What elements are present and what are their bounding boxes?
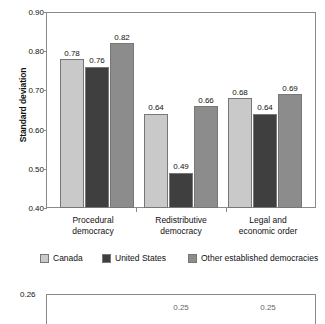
- y-tick-mark-0: [43, 208, 47, 209]
- bar-canada-legal[interactable]: [228, 98, 252, 208]
- legend-label-canada: Canada: [53, 253, 83, 263]
- bar-value-united-states-redistributive: 0.49: [173, 162, 189, 171]
- x-category-line-2b: economic order: [239, 226, 298, 237]
- x-category-label-redistributive-democracy: Redistributive democracy: [155, 215, 207, 236]
- x-category-line-0a: Procedural: [72, 215, 114, 226]
- bar-united-states-legal[interactable]: [253, 114, 277, 208]
- bar-value-other-democracies-redistributive: 0.66: [198, 96, 214, 105]
- x-category-line-1a: Redistributive: [155, 215, 207, 226]
- legend-item-canada[interactable]: Canada: [40, 253, 83, 263]
- bars-layer: 0.78 0.76 0.82 0.64 0.49 0.66 0.68 0.64 …: [46, 12, 316, 208]
- legend-swatch-canada-icon: [40, 254, 49, 263]
- bar-value-other-democracies-procedural: 0.82: [114, 33, 130, 42]
- y-tick-label-4: 0.80: [14, 47, 44, 56]
- bar-group-redistributive-democracy: 0.64 0.49 0.66: [144, 12, 218, 208]
- legend-item-other-democracies[interactable]: Other established democracies: [188, 253, 318, 263]
- x-category-label-legal-economic-order: Legal and economic order: [239, 215, 298, 236]
- legend-swatch-united-states-icon: [102, 254, 111, 263]
- legend-label-united-states: United States: [115, 253, 166, 263]
- bar-value-canada-legal: 0.68: [232, 88, 248, 97]
- x-tick-mark-0: [136, 208, 137, 212]
- second-figure-value-label-1: 0.25: [260, 303, 276, 312]
- x-category-line-0b: democracy: [72, 226, 114, 237]
- y-tick-label-3: 0.70: [14, 86, 44, 95]
- bar-value-canada-procedural: 0.78: [64, 49, 80, 58]
- second-figure-y-tick-label: 0.26: [20, 290, 36, 299]
- bar-united-states-procedural[interactable]: [85, 67, 109, 208]
- bar-canada-redistributive[interactable]: [144, 114, 168, 208]
- legend-swatch-other-democracies-icon: [188, 254, 197, 263]
- second-figure-value-label-0: 0.25: [173, 303, 189, 312]
- bar-other-democracies-procedural[interactable]: [110, 43, 134, 208]
- bar-other-democracies-legal[interactable]: [278, 94, 302, 208]
- bar-value-united-states-legal: 0.64: [257, 103, 273, 112]
- bar-other-democracies-redistributive[interactable]: [194, 106, 218, 208]
- y-tick-label-1: 0.50: [14, 164, 44, 173]
- y-tick-label-0: 0.40: [14, 204, 44, 213]
- legend-item-united-states[interactable]: United States: [102, 253, 166, 263]
- bar-group-procedural-democracy: 0.78 0.76 0.82: [60, 12, 134, 208]
- bar-canada-procedural[interactable]: [60, 59, 84, 208]
- bar-value-united-states-procedural: 0.76: [89, 56, 105, 65]
- bar-value-canada-redistributive: 0.64: [148, 103, 164, 112]
- bar-group-legal-economic-order: 0.68 0.64 0.69: [228, 12, 302, 208]
- y-axis-title: Standard deviation: [18, 40, 28, 170]
- x-category-line-1b: democracy: [155, 226, 207, 237]
- x-category-label-procedural-democracy: Procedural democracy: [72, 215, 114, 236]
- y-tick-label-5: 0.90: [14, 8, 44, 17]
- y-tick-label-2: 0.60: [14, 125, 44, 134]
- x-tick-mark-1: [226, 208, 227, 212]
- bar-united-states-redistributive[interactable]: [169, 173, 193, 208]
- legend-label-other-democracies: Other established democracies: [201, 253, 318, 263]
- chart-legend: Canada United States Other established d…: [40, 253, 325, 267]
- bar-value-other-democracies-legal: 0.69: [282, 84, 298, 93]
- x-category-line-2a: Legal and: [239, 215, 298, 226]
